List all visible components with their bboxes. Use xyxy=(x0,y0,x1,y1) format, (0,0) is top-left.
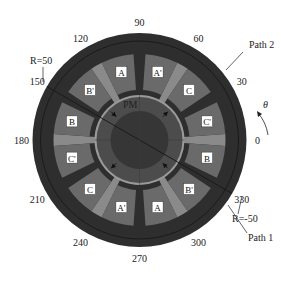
angle-label: 330 xyxy=(234,194,249,205)
coil-label: B xyxy=(69,117,75,127)
angle-label: 240 xyxy=(73,237,88,248)
coil-label: A' xyxy=(154,68,162,78)
angle-label: 120 xyxy=(73,33,88,44)
theta-arrow xyxy=(258,113,268,135)
theta-arrowhead-icon xyxy=(257,111,262,117)
coil-label: A xyxy=(154,203,161,213)
coil-label: B' xyxy=(185,185,193,195)
coil-label: C xyxy=(87,185,93,195)
r-pos-label: R=50 xyxy=(30,55,52,66)
angle-label: 300 xyxy=(191,237,206,248)
angle-label: 270 xyxy=(132,253,147,264)
coil-label: A xyxy=(118,68,125,78)
angle-label: 60 xyxy=(194,33,204,44)
coil-label: B xyxy=(204,154,210,164)
path2-leader xyxy=(226,52,243,70)
coil-label: C' xyxy=(68,154,76,164)
r-neg-label: R=-50 xyxy=(232,213,258,224)
coil-label: B' xyxy=(86,86,94,96)
theta-label: θ xyxy=(263,99,268,110)
motor-cross-section-diagram: C'CA'AB'BC'CA'AB'B 030609012015018021024… xyxy=(0,0,281,281)
pm-label: PM xyxy=(123,99,138,110)
coil-label: C xyxy=(186,86,192,96)
angle-label: 0 xyxy=(255,135,260,146)
coil-label: A' xyxy=(117,203,125,213)
angle-label: 180 xyxy=(14,135,29,146)
path2-label: Path 2 xyxy=(249,39,274,50)
path1-label: Path 1 xyxy=(248,232,273,243)
angle-label: 150 xyxy=(30,76,45,87)
angle-label: 90 xyxy=(135,17,145,28)
angle-label: 30 xyxy=(237,76,247,87)
coil-label: C' xyxy=(203,117,211,127)
angle-label: 210 xyxy=(30,194,45,205)
